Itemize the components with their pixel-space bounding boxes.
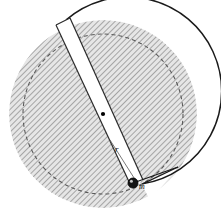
ball-highlight-icon [130,180,133,183]
label-radius-r: r [115,144,119,154]
ball-mass-m [128,178,138,188]
figure-root: m r [0,0,221,222]
center-axis-dot [101,112,105,116]
mechanics-diagram: m r [0,0,221,222]
ball-body [128,178,138,188]
label-mass-m: m [139,182,145,191]
